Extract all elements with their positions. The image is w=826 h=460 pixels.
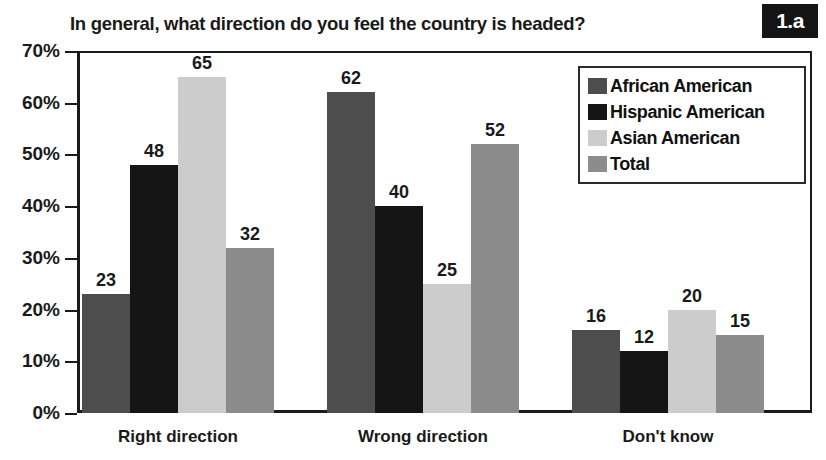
y-axis-tick-label: 20% [0, 299, 60, 321]
y-axis-tick-mark [65, 154, 77, 156]
y-axis-tick-mark [65, 258, 77, 260]
legend-item-label: Asian American [610, 128, 740, 149]
y-axis-tick-label: 60% [0, 92, 60, 114]
y-axis-tick-mark [65, 361, 77, 363]
page-title: In general, what direction do you feel t… [70, 13, 585, 35]
y-axis-tick-mark [65, 413, 77, 415]
x-axis-category-label: Right direction [118, 427, 238, 447]
legend-item: Hispanic American [588, 99, 804, 125]
y-axis-tick-mark [65, 103, 77, 105]
legend-item: Asian American [588, 125, 804, 151]
chart-legend: African AmericanHispanic AmericanAsian A… [578, 66, 806, 184]
legend-swatch-icon [588, 130, 607, 146]
y-axis-tick-label: 70% [0, 40, 60, 62]
y-axis-tick-mark [65, 51, 77, 53]
chart-figure: In general, what direction do you feel t… [0, 0, 826, 460]
figure-number-badge: 1.a [762, 4, 818, 38]
legend-swatch-icon [588, 104, 607, 120]
legend-item-label: Total [610, 154, 650, 175]
y-axis-tick-mark [65, 206, 77, 208]
x-axis-category-label: Don't know [623, 427, 714, 447]
legend-item-label: Hispanic American [610, 102, 765, 123]
legend-item-label: African American [610, 76, 752, 97]
y-axis-tick-label: 0% [0, 402, 60, 424]
legend-item: African American [588, 73, 804, 99]
legend-swatch-icon [588, 78, 607, 94]
legend-swatch-icon [588, 156, 607, 172]
y-axis-tick-label: 40% [0, 195, 60, 217]
y-axis-tick-label: 30% [0, 247, 60, 269]
y-axis-tick-label: 10% [0, 350, 60, 372]
y-axis-tick-mark [65, 310, 77, 312]
y-axis-tick-label: 50% [0, 143, 60, 165]
x-axis-category-label: Wrong direction [358, 427, 488, 447]
legend-item: Total [588, 151, 804, 177]
